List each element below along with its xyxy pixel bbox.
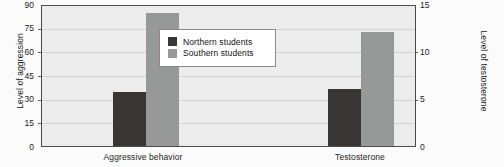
legend-item-northern: Northern students [168,37,267,47]
x-axis-label-aggressive-behavior: Aggressive behavior [73,152,213,162]
legend-item-southern: Southern students [168,48,267,58]
bar-testosterone-southern-students [361,32,394,146]
legend-swatch-northern [168,37,177,46]
plot-area [41,5,416,147]
y-axis-left-tick-90: 90 [12,1,34,10]
y-axis-right-tick-10: 10 [420,48,442,57]
y-axis-right-title: Level of testosterone [479,11,489,131]
y-axis-right-tick-5: 5 [420,95,442,104]
bar-aggressive-behavior-northern-students [113,92,146,146]
y-axis-right-tick-15: 15 [420,1,442,10]
y-axis-left-ticks: 0153045607590 [12,0,34,167]
chart-figure: Level of aggression Level of testosteron… [0,0,504,167]
y-axis-left-tick-0: 0 [12,143,34,152]
y-axis-left-tick-30: 30 [12,95,34,104]
bar-testosterone-northern-students [328,89,361,146]
y-axis-right-ticks: 051015 [420,0,442,167]
x-axis-label-testosterone: Testosterone [290,152,430,162]
y-axis-left-tick-15: 15 [12,119,34,128]
legend-label-northern: Northern students [183,37,252,47]
legend-label-southern: Southern students [183,48,254,58]
y-axis-left-tick-60: 60 [12,48,34,57]
legend-swatch-southern [168,49,177,58]
chart-legend: Northern students Southern students [159,29,276,67]
gridline [42,76,415,77]
y-axis-right-tick-0: 0 [420,143,442,152]
y-axis-left-tick-45: 45 [12,72,34,81]
y-axis-left-tick-75: 75 [12,24,34,33]
